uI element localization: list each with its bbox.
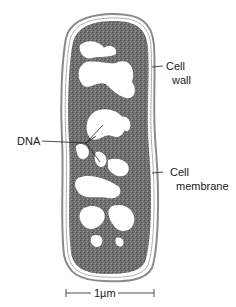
bacterial-cell-diagram: Cell wall DNA Cell membrane 1µm — [0, 0, 236, 307]
cell-membrane-label-line1: Cell — [170, 166, 189, 178]
cell-wall-label-line2: wall — [172, 74, 191, 86]
cell-membrane-label-line2: membrane — [176, 180, 229, 192]
cell-illustration — [0, 0, 236, 307]
dna-label: DNA — [17, 135, 40, 147]
scale-bar-label: 1µm — [94, 287, 116, 299]
cell-wall-label-line1: Cell — [166, 60, 185, 72]
